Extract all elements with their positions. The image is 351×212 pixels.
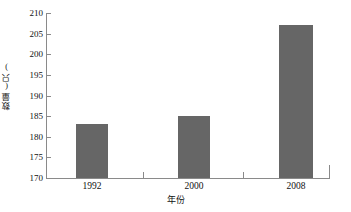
y-tick-mark xyxy=(47,137,51,138)
y-tick-mark xyxy=(47,178,51,179)
y-tick-label: 205 xyxy=(17,29,43,38)
y-tick-label: 210 xyxy=(17,9,43,18)
y-tick-mark xyxy=(47,13,51,14)
y-tick-label: 180 xyxy=(17,132,43,141)
x-tick-mark xyxy=(143,172,144,178)
y-tick-label: 200 xyxy=(17,50,43,59)
y-tick-mark xyxy=(47,75,51,76)
x-tick-label-2000: 2000 xyxy=(185,181,204,191)
x-tick-label-2008: 2008 xyxy=(287,181,306,191)
y-tick-label: 185 xyxy=(17,112,43,121)
y-tick-label: 190 xyxy=(17,91,43,100)
y-axis-tick-labels: 210 205 200 195 190 185 180 175 170 xyxy=(17,0,43,212)
plot-right-edge xyxy=(329,165,330,179)
y-tick-label: 170 xyxy=(17,174,43,183)
plot-area xyxy=(46,13,330,178)
x-axis-title: 年份 xyxy=(0,195,351,205)
x-tick-mark xyxy=(243,172,244,178)
y-tick-label: 175 xyxy=(17,153,43,162)
y-axis-title: 数量(只) xyxy=(0,56,14,118)
y-tick-mark xyxy=(47,96,51,97)
bar-1992 xyxy=(76,124,108,178)
y-tick-label: 195 xyxy=(17,70,43,79)
bar-chart: 数量(只) 210 205 200 195 190 185 180 175 17… xyxy=(0,0,351,212)
y-tick-mark xyxy=(47,157,51,158)
y-tick-mark xyxy=(47,54,51,55)
y-tick-mark xyxy=(47,116,51,117)
bar-2000 xyxy=(178,116,210,178)
bar-2008 xyxy=(279,25,313,178)
x-axis-line xyxy=(46,178,330,179)
y-tick-mark xyxy=(47,34,51,35)
x-tick-label-1992: 1992 xyxy=(83,181,102,191)
